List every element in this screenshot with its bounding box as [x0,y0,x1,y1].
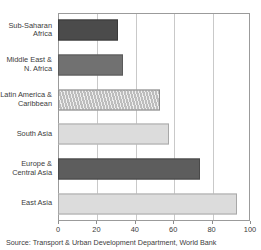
bar-row[interactable]: Latin America & Caribbean [0,82,261,117]
bar-track [58,152,250,187]
bar-rows: Sub-Saharan AfricaMiddle East & N. Afric… [0,13,261,221]
x-tick-label: 100 [244,225,256,234]
category-label: Latin America & Caribbean [0,91,55,108]
x-tick-mark [250,221,251,224]
bar[interactable] [58,20,118,41]
x-tick-label: 60 [169,225,177,234]
chart-plot-area: Sub-Saharan AfricaMiddle East & N. Afric… [0,13,261,221]
bar[interactable] [58,89,160,110]
x-tick-mark [96,221,97,224]
chart-title [14,0,249,2]
x-tick-label: 80 [207,225,215,234]
x-tick-label: 20 [92,225,100,234]
bar-row[interactable]: Sub-Saharan Africa [0,13,261,48]
bar-track [58,82,250,117]
bar-track [58,13,250,48]
bar-row[interactable]: South Asia [0,117,261,152]
bar[interactable] [58,124,169,145]
bar-track [58,186,250,221]
x-tick-label: 40 [131,225,139,234]
bar-track [58,117,250,152]
bar[interactable] [58,54,123,75]
category-label: Europe & Central Asia [0,160,55,177]
x-tick-label: 0 [56,225,60,234]
category-label: Middle East & N. Africa [0,56,55,73]
category-label: East Asia [0,199,55,208]
x-tick-mark [58,221,59,224]
category-label: South Asia [0,130,55,139]
source-note: Source: Transport & Urban Development De… [6,238,216,247]
bar[interactable] [58,158,200,179]
bar-track [58,48,250,83]
x-axis: 020406080100 [58,221,250,235]
bar-row[interactable]: Middle East & N. Africa [0,48,261,83]
x-tick-mark [135,221,136,224]
category-label: Sub-Saharan Africa [0,22,55,39]
bar-row[interactable]: Europe & Central Asia [0,152,261,187]
bar-row[interactable]: East Asia [0,186,261,221]
x-tick-mark [212,221,213,224]
bar[interactable] [58,193,237,214]
x-tick-mark [173,221,174,224]
